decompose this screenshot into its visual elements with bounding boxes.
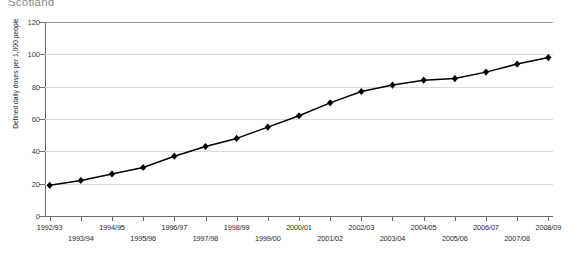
y-axis-tick-label: 40 (14, 147, 40, 156)
x-axis-tick-label: 1998/99 (224, 223, 250, 232)
x-axis-tick-mark (330, 216, 331, 221)
x-axis-tick-label: 2006/07 (473, 223, 499, 232)
y-axis-tick-label: 20 (14, 179, 40, 188)
y-axis-tick-labels: 020406080100120 (0, 0, 40, 255)
x-axis-tick-mark (392, 216, 393, 221)
y-axis-tick-mark (39, 184, 45, 185)
x-axis-tick-label: 1993/94 (68, 234, 94, 243)
plot-area (45, 22, 553, 216)
x-axis-tick-mark (424, 216, 425, 221)
y-axis-tick-mark (39, 54, 45, 55)
x-axis-tick-label: 1992/93 (37, 223, 63, 232)
y-axis-tick-label: 80 (14, 82, 40, 91)
y-axis-tick-mark (39, 87, 45, 88)
x-axis-tick-label: 1999/00 (255, 234, 281, 243)
x-axis-tick-label: 2008/09 (535, 223, 561, 232)
y-axis-tick-label: 60 (14, 115, 40, 124)
gridline (45, 151, 553, 152)
y-axis-tick-mark (39, 216, 45, 217)
x-axis-tick-label: 1996/97 (161, 223, 187, 232)
y-axis-tick-label: 0 (14, 212, 40, 221)
x-axis-tick-label: 2004/05 (411, 223, 437, 232)
x-axis-tick-mark (361, 216, 362, 221)
x-axis-tick-mark (237, 216, 238, 221)
y-axis-tick-mark (39, 22, 45, 23)
x-axis-tick-label: 2005/06 (442, 234, 468, 243)
x-axis-tick-mark (299, 216, 300, 221)
x-axis-tick-mark (455, 216, 456, 221)
gridline (45, 54, 553, 55)
x-axis-tick-label: 2002/03 (348, 223, 374, 232)
gridline (45, 184, 553, 185)
x-axis-tick-label: 1995/96 (130, 234, 156, 243)
line-chart: Scotland Defined daily doses per 1,000 p… (0, 0, 574, 255)
x-axis-tick-label: 2001/02 (317, 234, 343, 243)
x-axis-tick-label: 2003/04 (380, 234, 406, 243)
gridline (45, 87, 553, 88)
x-axis-tick-label: 1994/95 (99, 223, 125, 232)
x-axis-tick-mark (206, 216, 207, 221)
x-axis-tick-label: 1997/98 (193, 234, 219, 243)
x-axis-tick-label: 2007/08 (504, 234, 530, 243)
x-axis-tick-mark (548, 216, 549, 221)
x-axis-tick-mark (112, 216, 113, 221)
x-axis-tick-mark (81, 216, 82, 221)
x-axis-tick-mark (50, 216, 51, 221)
x-axis-tick-mark (517, 216, 518, 221)
x-axis-tick-mark (486, 216, 487, 221)
y-axis-tick-mark (39, 119, 45, 120)
y-axis-tick-mark (39, 151, 45, 152)
x-axis-tick-label: 2000/01 (286, 223, 312, 232)
gridline (45, 22, 553, 23)
y-axis-tick-label: 120 (14, 18, 40, 27)
gridline (45, 119, 553, 120)
x-axis-tick-mark (174, 216, 175, 221)
x-axis-tick-mark (143, 216, 144, 221)
x-axis-tick-mark (268, 216, 269, 221)
y-axis-tick-label: 100 (14, 50, 40, 59)
